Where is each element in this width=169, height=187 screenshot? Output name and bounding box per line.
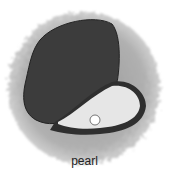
caption-label: pearl — [0, 154, 169, 168]
pearl-icon — [90, 115, 100, 125]
